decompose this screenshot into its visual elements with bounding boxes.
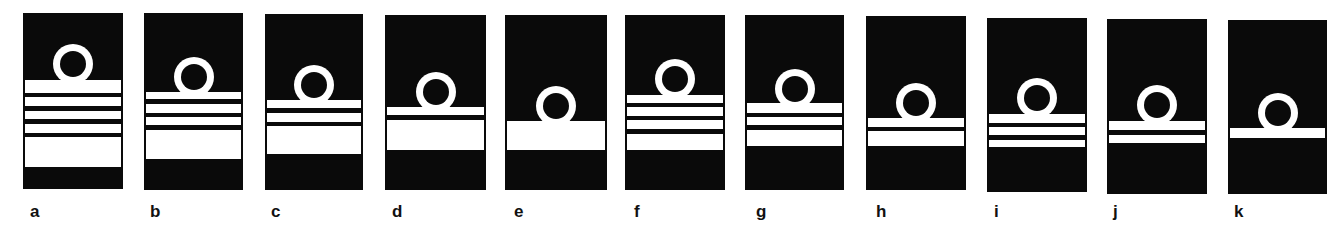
rank-stripe (627, 120, 723, 129)
insignia-panel-i (987, 18, 1087, 192)
rank-stripe (146, 130, 241, 159)
insignia-panel-a (23, 13, 123, 189)
executive-curl-icon (174, 57, 214, 97)
rank-stripe (267, 100, 361, 108)
insignia-panel-e (505, 15, 607, 190)
rank-stripe (25, 137, 121, 167)
rank-insignia-figure: abcdefghijk (0, 0, 1340, 235)
rank-stripe (146, 104, 241, 113)
rank-stripe (989, 114, 1085, 123)
rank-stripe (25, 111, 121, 119)
insignia-panel-k (1228, 20, 1327, 194)
rank-stripe (25, 124, 121, 133)
panel-label: h (876, 203, 886, 220)
executive-curl-icon (655, 59, 695, 99)
insignia-panel-j (1107, 19, 1207, 194)
executive-curl-icon (536, 86, 576, 126)
insignia-panel-f (625, 15, 725, 190)
executive-curl-icon (896, 83, 936, 123)
rank-stripe (747, 117, 842, 125)
rank-stripe (146, 92, 241, 99)
rank-stripe (1109, 135, 1205, 143)
rank-stripe (1109, 121, 1205, 130)
rank-stripe (747, 103, 842, 113)
insignia-panel-d (385, 15, 486, 190)
panel-label: i (994, 203, 999, 220)
rank-stripe (25, 80, 121, 93)
rank-stripe (627, 95, 723, 103)
panel-label: j (1113, 203, 1118, 220)
insignia-panel-g (745, 15, 844, 190)
rank-stripe (868, 131, 964, 146)
insignia-panel-h (866, 16, 966, 190)
rank-stripe (627, 107, 723, 116)
panel-label: e (514, 203, 523, 220)
executive-curl-icon (1017, 78, 1057, 118)
executive-curl-icon (294, 65, 334, 105)
panel-label: k (1234, 203, 1243, 220)
panel-label: b (150, 203, 160, 220)
executive-curl-icon (416, 72, 456, 112)
rank-stripe (387, 107, 484, 115)
rank-stripe (747, 130, 842, 146)
rank-stripe (146, 117, 241, 125)
panel-label: d (392, 203, 402, 220)
rank-stripe (627, 134, 723, 150)
executive-curl-icon (53, 44, 93, 84)
rank-stripe (267, 113, 361, 122)
rank-stripe (25, 97, 121, 106)
panel-label: g (756, 203, 766, 220)
rank-stripe (1230, 128, 1325, 138)
insignia-panel-b (144, 13, 243, 190)
rank-stripe (989, 140, 1085, 147)
insignia-panel-c (265, 14, 363, 190)
executive-curl-icon (1258, 93, 1298, 133)
rank-stripe (507, 121, 605, 150)
executive-curl-icon (1137, 85, 1177, 125)
panel-label: f (634, 203, 640, 220)
rank-stripe (267, 126, 361, 154)
panel-label: a (30, 203, 39, 220)
rank-stripe (868, 118, 964, 127)
rank-stripe (387, 120, 484, 150)
panel-label: c (271, 203, 280, 220)
rank-stripe (989, 127, 1085, 135)
